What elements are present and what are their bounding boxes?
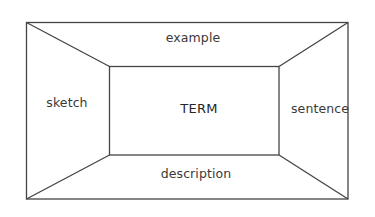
panel-left-label: sketch (46, 97, 87, 110)
panel-right-label: sentence (291, 103, 349, 116)
connector-top-right (279, 23, 348, 67)
panel-bottom-label: description (161, 168, 232, 181)
connector-bottom-left (27, 155, 110, 199)
frayer-diagram: example sketch TERM sentence description (0, 0, 375, 217)
connector-bottom-right (279, 155, 348, 199)
panel-top-label: example (166, 32, 221, 45)
connector-top-left (27, 23, 110, 67)
center-term-label: TERM (180, 102, 218, 115)
